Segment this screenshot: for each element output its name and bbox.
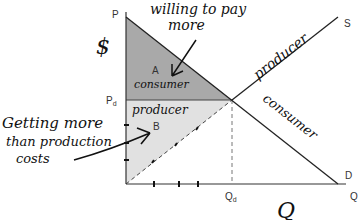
demand-label: D [345,170,352,181]
producer-region-caption: producer [132,103,189,117]
handwritten-q: Q [277,198,295,220]
note-left-line3: costs [16,151,50,166]
note-top-line1: willing to pay [150,1,247,17]
region-b-letter: B [153,121,160,132]
note-left-line1: Getting more [2,114,103,132]
supply-curve-annotation: producer [250,29,312,82]
surplus-diagram: P $ S D Q Pd Qd A B consumer producer pr… [0,0,358,220]
qd-label: Qd [225,191,237,203]
dollar-marker: $ [96,34,110,59]
note-left-line2: than production [6,134,112,149]
note-top-line2: more [168,17,205,33]
pd-label: Pd [106,95,117,107]
region-a-letter: A [152,65,159,76]
consumer-region-caption: consumer [134,78,190,91]
quantity-axis-label: Q [350,191,358,202]
demand-curve-annotation: consumer [260,91,321,143]
price-axis-label: P [112,9,119,20]
supply-label: S [344,18,351,29]
